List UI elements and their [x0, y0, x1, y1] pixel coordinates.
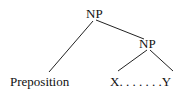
- root-np-label: NP: [86, 7, 103, 20]
- edge-root-preposition: [49, 21, 93, 72]
- child-np-label: NP: [139, 37, 156, 50]
- preposition-label: Preposition: [10, 75, 69, 88]
- edge-np-y: [150, 50, 173, 71]
- edge-root-np: [96, 20, 144, 39]
- edge-np-x: [118, 50, 147, 71]
- xy-label: X. . . . . . .Y: [110, 75, 171, 88]
